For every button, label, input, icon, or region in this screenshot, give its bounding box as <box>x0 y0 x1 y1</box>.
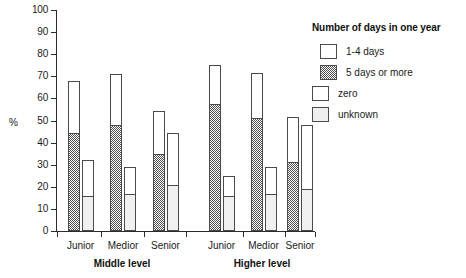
legend-item: unknown <box>312 104 466 124</box>
y-axis-tick <box>51 187 56 188</box>
y-axis-tick <box>51 10 56 11</box>
bar-segment-unknown <box>302 189 312 230</box>
y-axis-tick-label: 40 <box>22 138 48 148</box>
y-axis-tick-label: 100 <box>22 5 48 15</box>
legend-label: 1-4 days <box>346 46 384 57</box>
legend-swatch-unknown <box>312 107 329 122</box>
legend-swatch-5-days-or-more <box>320 65 337 80</box>
plot-area <box>57 10 319 231</box>
bar-segment-unknown <box>83 196 93 230</box>
y-axis-tick-label: 30 <box>22 160 48 170</box>
bar-segment-5-days-or-more <box>69 133 79 230</box>
bar-segment-unknown <box>224 196 234 230</box>
y-axis-tick <box>51 54 56 55</box>
y-axis-tick <box>51 76 56 77</box>
legend-swatch-zero <box>312 86 329 101</box>
bar-higher-level-junior-zero <box>223 176 235 231</box>
x-axis-tick <box>186 232 187 237</box>
x-axis-tick <box>101 232 102 237</box>
y-axis-tick-label: 20 <box>22 182 48 192</box>
bar-higher-level-senior-zero <box>301 125 313 231</box>
x-axis-tick <box>285 232 286 237</box>
legend-item: 5 days or more <box>312 62 466 82</box>
bar-chart: % 0102030405060708090100 JuniorMediorSen… <box>0 0 320 278</box>
bar-segment-unknown <box>168 185 178 230</box>
y-axis-tick-label: 10 <box>22 204 48 214</box>
x-axis-group-label: Middle level <box>62 258 182 269</box>
bar-segment-5-days-or-more <box>210 104 220 230</box>
legend-items: 1-4 days5 days or morezerounknown <box>312 41 466 124</box>
y-axis-tick <box>51 98 56 99</box>
x-axis-group-label: Higher level <box>202 258 322 269</box>
x-axis-category-label: Senior <box>136 240 196 251</box>
bar-segment-5-days-or-more <box>154 154 164 230</box>
bar-middle-level-junior-zero <box>82 160 94 231</box>
bar-higher-level-junior-days <box>209 65 221 231</box>
legend-label: unknown <box>338 109 378 120</box>
legend-item: 1-4 days <box>312 41 466 61</box>
bar-middle-level-junior-days <box>68 81 80 231</box>
bar-middle-level-senior-zero <box>167 133 179 231</box>
y-axis-tick-label: 70 <box>22 71 48 81</box>
y-axis-tick <box>51 32 56 33</box>
x-axis-tick <box>315 232 316 237</box>
legend-label: zero <box>338 88 357 99</box>
x-axis-tick <box>57 232 58 237</box>
bar-middle-level-medior-days <box>110 74 122 231</box>
legend-swatch-1-4-days <box>320 44 337 59</box>
legend-item: zero <box>312 83 466 103</box>
y-axis-tick <box>51 143 56 144</box>
bar-segment-5-days-or-more <box>111 125 121 230</box>
legend-title: Number of days in one year <box>312 22 466 34</box>
bar-higher-level-medior-zero <box>265 167 277 231</box>
bar-segment-unknown <box>266 194 276 230</box>
y-axis-tick-label: 50 <box>22 116 48 126</box>
y-axis-tick <box>51 121 56 122</box>
y-axis-tick <box>51 165 56 166</box>
bar-segment-unknown <box>125 194 135 230</box>
x-axis-category-label: Senior <box>270 240 330 251</box>
y-axis-tick <box>51 209 56 210</box>
y-axis-tick-label: 80 <box>22 49 48 59</box>
legend-label: 5 days or more <box>346 67 413 78</box>
bar-segment-5-days-or-more <box>252 118 262 230</box>
y-axis-tick-label: 60 <box>22 93 48 103</box>
bar-higher-level-medior-days <box>251 73 263 231</box>
y-axis-tick-label: 0 <box>22 226 48 236</box>
x-axis-tick <box>243 232 244 237</box>
y-axis-tick <box>51 231 56 232</box>
bar-higher-level-senior-days <box>287 117 299 231</box>
bar-middle-level-senior-days <box>153 111 165 231</box>
bar-middle-level-medior-zero <box>124 167 136 231</box>
y-axis-tick-label: 90 <box>22 27 48 37</box>
bar-segment-5-days-or-more <box>288 162 298 231</box>
y-axis-title: % <box>9 118 18 128</box>
x-axis-tick <box>144 232 145 237</box>
legend: Number of days in one year 1-4 days5 day… <box>312 22 466 125</box>
